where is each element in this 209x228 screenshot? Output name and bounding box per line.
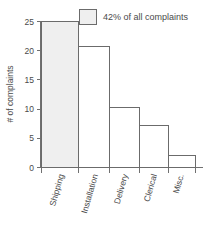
bar-installation[interactable]: [79, 46, 110, 168]
y-tick-label-5: 5: [29, 133, 34, 143]
legend-swatch-0: [80, 10, 97, 25]
y-axis-title: # of complaints: [5, 65, 15, 122]
y-tick-label-15: 15: [25, 75, 35, 85]
bar-delivery[interactable]: [110, 107, 140, 167]
y-tick-label-20: 20: [25, 46, 35, 56]
y-tick-label-10: 10: [25, 104, 35, 114]
legend-label-0: 42% of all complaints: [103, 12, 189, 22]
bar-shipping[interactable]: [42, 22, 79, 168]
bar-misc[interactable]: [169, 155, 196, 167]
y-tick-label-25: 25: [25, 17, 35, 27]
bar-chart-figure: 0 5 10 15 20 25 # of complaints Shipping…: [0, 0, 209, 228]
y-tick-label-0: 0: [29, 163, 34, 173]
bar-clerical[interactable]: [140, 125, 169, 168]
chart-canvas: 0 5 10 15 20 25 # of complaints Shipping…: [0, 0, 209, 228]
